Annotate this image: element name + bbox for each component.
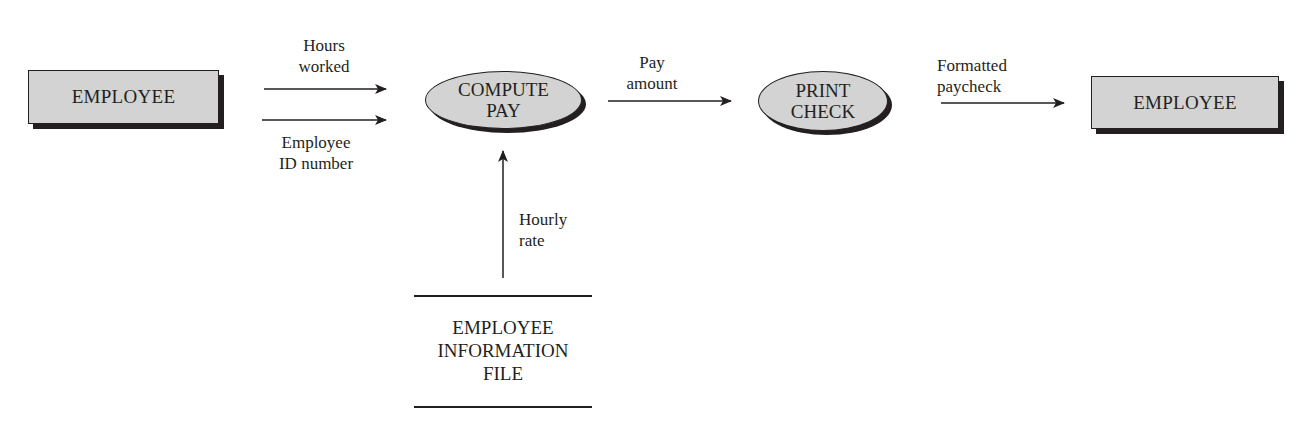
employee-sink-entity: EMPLOYEE xyxy=(1091,76,1279,129)
label-hours-worked-line1: Hours xyxy=(276,35,372,56)
employee-source-label: EMPLOYEE xyxy=(72,86,176,108)
employee-sink-label: EMPLOYEE xyxy=(1133,92,1237,114)
label-employee-id-line1: Employee xyxy=(262,132,370,153)
data-store-top-line xyxy=(414,295,592,297)
label-formatted-paycheck: Formatted paycheck xyxy=(937,55,1047,97)
label-pay-amount: Pay amount xyxy=(612,52,692,94)
print-check-process: PRINT CHECK xyxy=(758,71,888,131)
label-hourly-rate-line2: rate xyxy=(519,230,589,251)
compute-pay-line1: COMPUTE xyxy=(458,79,549,100)
employee-information-file-store: EMPLOYEE INFORMATION FILE xyxy=(414,316,592,385)
label-hourly-rate-line1: Hourly xyxy=(519,209,589,230)
print-check-line2: CHECK xyxy=(791,101,855,122)
label-formatted-paycheck-line2: paycheck xyxy=(937,76,1047,97)
compute-pay-process: COMPUTE PAY xyxy=(425,71,582,129)
label-hours-worked: Hours worked xyxy=(276,35,372,77)
data-store-line1: EMPLOYEE xyxy=(414,316,592,339)
label-employee-id: Employee ID number xyxy=(262,132,370,174)
label-pay-amount-line2: amount xyxy=(612,73,692,94)
label-employee-id-line2: ID number xyxy=(262,153,370,174)
label-hours-worked-line2: worked xyxy=(276,56,372,77)
print-check-line1: PRINT xyxy=(796,80,851,101)
label-pay-amount-line1: Pay xyxy=(612,52,692,73)
label-formatted-paycheck-line1: Formatted xyxy=(937,55,1047,76)
compute-pay-line2: PAY xyxy=(486,100,521,121)
employee-source-entity: EMPLOYEE xyxy=(28,70,219,124)
data-store-bottom-line xyxy=(414,406,592,408)
data-store-line2: INFORMATION xyxy=(414,339,592,362)
data-store-line3: FILE xyxy=(414,362,592,385)
label-hourly-rate: Hourly rate xyxy=(519,209,589,251)
